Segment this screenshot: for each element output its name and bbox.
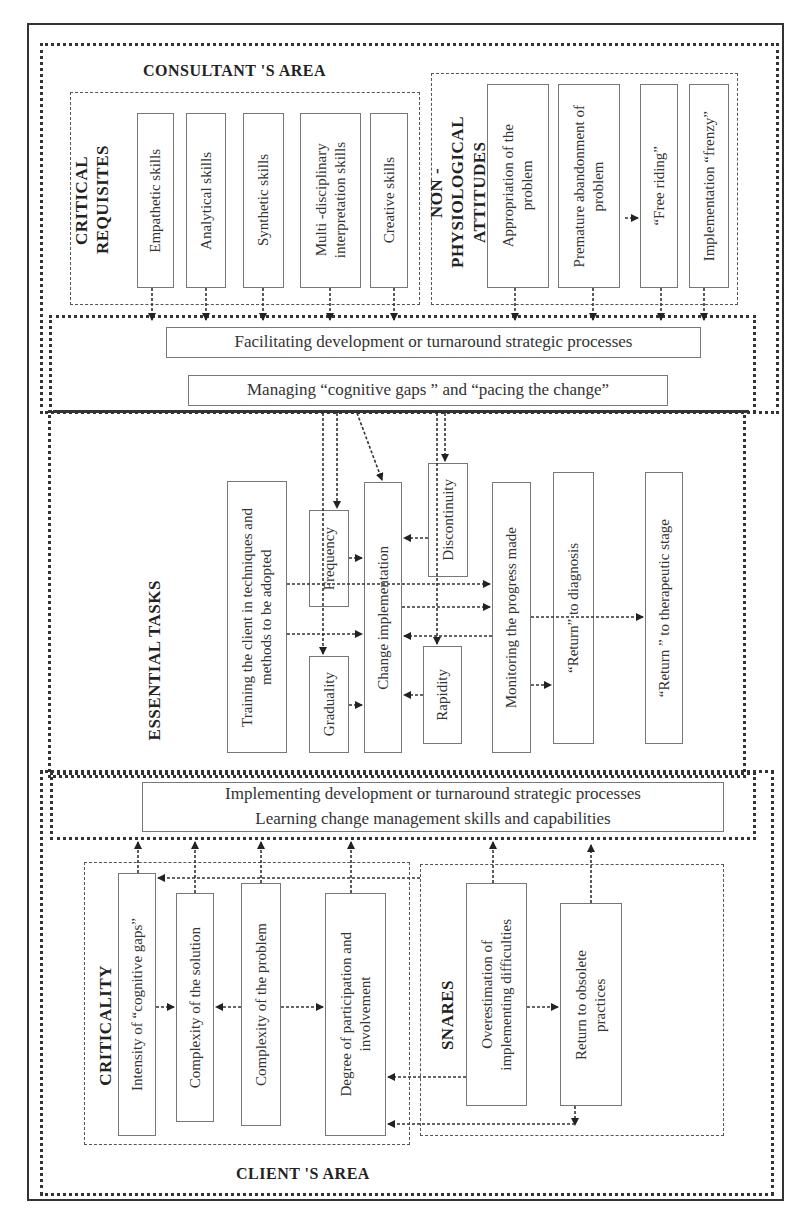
critical-requisites-title: CRITICAL REQUISITES xyxy=(71,105,114,295)
non-physiological-title-wrap: NON -PHYSIOLOGICAL ATTITUDES xyxy=(432,95,484,290)
snares-title-wrap: SNARES xyxy=(430,960,466,1070)
task-box-return-diagnosis: “Return” to diagnosis xyxy=(553,472,594,744)
essential-tasks-title: ESSENTIAL TASKS xyxy=(144,580,165,740)
snare-box-overestimation: Overestimation of implementing difficult… xyxy=(466,883,527,1106)
requisite-box-synthetic: Synthetic skills xyxy=(243,113,284,288)
task-box-return-therapeutic: “Return ” to therapeutic stage xyxy=(645,472,683,744)
attitude-box-appropriation: Appropriation of the problem xyxy=(487,84,549,288)
implementing-process-box: Implementing development or turnaround s… xyxy=(142,782,724,832)
criticality-box-solution-complexity: Complexity of the solution xyxy=(176,893,214,1122)
requisite-box-analytical: Analytical skills xyxy=(186,113,226,288)
requisite-box-creative: Creative skills xyxy=(370,113,408,288)
snares-title: SNARES xyxy=(437,980,458,1050)
criticality-box-problem-complexity: Complexity of the problem xyxy=(241,883,281,1126)
essential-tasks-title-wrap: ESSENTIAL TASKS xyxy=(135,540,175,780)
snare-box-return-obsolete: Return to obsolete practices xyxy=(560,903,622,1106)
consultant-area-title: CONSULTANT 'S AREA xyxy=(143,62,326,80)
critical-requisites-title-wrap: CRITICAL REQUISITES xyxy=(72,105,112,295)
attitude-box-premature-abandonment: Premature abandonment of problem xyxy=(558,84,620,288)
task-box-rapidity: Rapidity xyxy=(423,646,462,744)
requisite-box-multidisciplinary: Multi -disciplinary interpretation skill… xyxy=(300,113,361,288)
facilitating-process-box: Facilitating development or turnaround s… xyxy=(166,327,701,358)
task-box-change-implementation: Change implementation xyxy=(364,482,402,753)
criticality-box-participation: Degree of participation and involvement xyxy=(325,893,386,1136)
criticality-box-intensity: Intensity of “cognitive gaps” xyxy=(118,873,156,1136)
managing-gaps-box: Managing “cognitive gaps ” and “pacing t… xyxy=(188,375,668,406)
criticality-title: CRITICALITY xyxy=(95,965,116,1086)
non-physiological-title: NON -PHYSIOLOGICAL ATTITUDES xyxy=(426,95,490,290)
requisite-box-empathetic: Empathetic skills xyxy=(137,113,174,288)
task-box-graduality: Graduality xyxy=(309,656,349,753)
task-box-discontinuity: Discontinuity xyxy=(428,463,468,577)
attitude-box-implementation-frenzy: Implementation “frenzy” xyxy=(689,84,729,288)
task-box-monitoring: Monitoring the progress made xyxy=(492,482,531,753)
attitude-box-free-riding: “Free riding” xyxy=(640,84,678,288)
task-box-frequency: Frequency xyxy=(309,510,349,607)
client-area-title: CLIENT 'S AREA xyxy=(236,1165,370,1183)
task-box-training: Training the client in techniques and me… xyxy=(227,481,287,753)
